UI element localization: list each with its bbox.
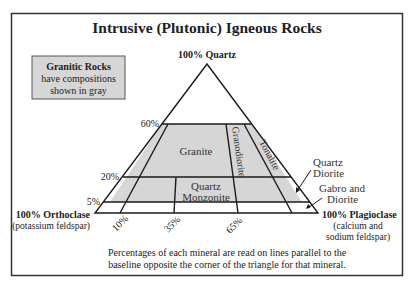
- vertex-plagioclase-label: 100% Plagioclase: [322, 209, 397, 220]
- legend-title: Granitic Rocks: [46, 61, 111, 72]
- caption-line-2: baseline opposite the corner of the tria…: [108, 259, 346, 270]
- callout-gabbro-2: Diorite: [327, 193, 358, 205]
- vertex-plagioclase-sub-2: sodium feldspar): [326, 232, 390, 243]
- vertex-plagioclase-sub-1: (calcium and: [333, 221, 383, 232]
- quartz-20-label: 20%: [101, 171, 119, 182]
- vertex-orthoclase-label: 100% Orthoclase: [16, 209, 91, 220]
- quartz-5-label: 5%: [87, 196, 100, 207]
- diagram-canvas: Intrusive (Plutonic) Igneous Rocks Grani…: [0, 0, 415, 287]
- region-granite: Granite: [180, 145, 213, 157]
- legend-line-3: shown in gray: [50, 85, 107, 96]
- figure-title: Intrusive (Plutonic) Igneous Rocks: [92, 19, 322, 37]
- caption-line-1: Percentages of each mineral are read on …: [108, 247, 347, 258]
- vertex-orthoclase-sub: (potassium feldspar): [12, 221, 90, 232]
- callout-quartz-diorite-2: Diorite: [313, 167, 344, 179]
- vertex-quartz-label: 100% Quartz: [178, 49, 237, 60]
- region-quartz-monzonite-2: Monzonite: [182, 191, 230, 203]
- legend-line-2: have compositions: [41, 73, 116, 84]
- quartz-60-label: 60%: [141, 118, 159, 129]
